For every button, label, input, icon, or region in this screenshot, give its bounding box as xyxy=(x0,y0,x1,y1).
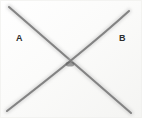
curve-label-b: B xyxy=(119,34,126,43)
figure-container: A B xyxy=(0,0,142,118)
crossing-point-marker xyxy=(66,61,75,66)
line-drawing-canvas xyxy=(0,0,142,118)
curve-label-a: A xyxy=(16,34,23,43)
